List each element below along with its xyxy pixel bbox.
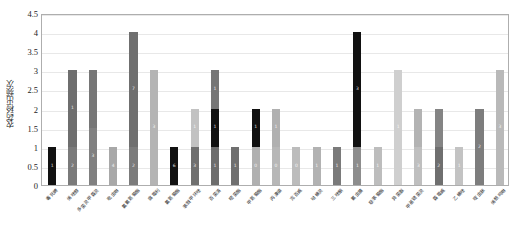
bar[interactable]: 3 <box>150 70 158 185</box>
bar[interactable]: 3 <box>414 109 422 185</box>
bar[interactable]: 1 <box>455 147 463 185</box>
y-tick-label: 0 <box>34 181 38 191</box>
y-tick-label: 2.5 <box>27 85 38 95</box>
bar-value-label: 1 <box>193 125 196 130</box>
bar-value-label: 1 <box>397 125 400 130</box>
x-tick-label: 啶虫脒 <box>473 188 486 202</box>
bar-value-label: 3 <box>193 164 196 169</box>
bar-value-label: 1 <box>254 125 257 130</box>
bar-segment: 4 <box>109 147 117 185</box>
bar[interactable]: 13 <box>353 32 361 185</box>
x-tick-label: 氯氰菊酯 <box>165 188 182 206</box>
bar-segment: 3 <box>191 147 199 185</box>
bar-value-label: 3 <box>91 154 94 159</box>
y-tick-label: 3.5 <box>27 47 38 57</box>
x-tick-label: 氟虫腈 <box>351 188 364 202</box>
bar[interactable]: 3 <box>89 70 97 185</box>
x-tick-label: 腐霉利 <box>148 188 161 202</box>
bar-value-label: 1 <box>51 164 54 169</box>
x-tick-label: 三唑酮 <box>331 188 344 202</box>
bar-segment: 1 <box>333 147 341 185</box>
bar[interactable]: 01 <box>252 109 260 185</box>
bar-segment: 1 <box>68 70 76 146</box>
bar-segment: 1 <box>252 109 260 147</box>
bar[interactable]: 1 <box>374 147 382 185</box>
bar-value-label: 3 <box>356 87 359 92</box>
bar-value-label: 3 <box>152 125 155 130</box>
bar-value-label: 3 <box>498 125 501 130</box>
bar-value-label: 1 <box>315 164 318 169</box>
y-tick-label: 1 <box>34 143 38 153</box>
bar-value-label: 1 <box>71 106 74 111</box>
bar-value-label: 2 <box>132 164 135 169</box>
bar-segment: 3 <box>353 32 361 147</box>
bar-segment: 1 <box>272 109 280 147</box>
bar-value-label: 1 <box>376 164 379 169</box>
bar-segment: 1 <box>313 147 321 185</box>
bar[interactable]: 4 <box>109 147 117 185</box>
bar-segment: 1 <box>211 147 219 185</box>
bar-segment: 0 <box>252 147 260 185</box>
bar[interactable]: 1 <box>48 147 56 185</box>
bar-segment: 1 <box>231 147 239 185</box>
x-tick-label: 异菌脲 <box>392 188 405 202</box>
bar-value-label: 1 <box>275 125 278 130</box>
bar[interactable]: 6 <box>170 147 178 185</box>
bar-value-label: 1 <box>214 164 217 169</box>
bar[interactable]: 1 <box>231 147 239 185</box>
bar[interactable]: 27 <box>129 32 137 185</box>
bar[interactable]: 31 <box>191 109 199 185</box>
x-tick-label: 嘧菌酯 <box>229 188 242 202</box>
bar-series: 1213427363111110101011131132123 <box>42 15 508 185</box>
bar[interactable]: 111 <box>211 70 219 185</box>
bar-value-label: 4 <box>112 164 115 169</box>
bar[interactable]: 1 <box>394 70 402 185</box>
bar-value-label: 7 <box>132 87 135 92</box>
chart-root: 农药检出频次 00.511.522.533.544.5 121342736311… <box>0 0 513 235</box>
bar[interactable]: 2 <box>435 109 443 185</box>
bar-segment: 3 <box>496 70 504 185</box>
bar[interactable]: 2 <box>475 109 483 185</box>
bar-segment: 7 <box>129 32 137 147</box>
x-tick-label: 克百威 <box>290 188 303 202</box>
x-tick-label: 甲基硫菌灵 <box>406 188 426 210</box>
x-tick-label: 乙螨唑 <box>453 188 466 202</box>
x-tick-label: 多菌灵甲霜灵 <box>77 188 100 213</box>
bar-value-label: 1 <box>458 164 461 169</box>
bar-segment: 1 <box>394 70 402 185</box>
bar-segment: 1 <box>48 147 56 185</box>
bar-segment: 2 <box>435 147 443 185</box>
bar-segment: 2 <box>129 147 137 185</box>
bar-segment: 1 <box>455 147 463 185</box>
bar-segment: 1 <box>374 147 382 185</box>
x-tick-label: 哒螨灵 <box>311 188 324 202</box>
x-tick-label: 毒死蜱 <box>46 188 59 202</box>
bar-value-label: 0 <box>254 164 257 169</box>
bar-segment: 3 <box>150 70 158 185</box>
bar[interactable]: 01 <box>272 109 280 185</box>
x-tick-label: 百菌清 <box>209 188 222 202</box>
bar-segment: 6 <box>170 147 178 185</box>
bar[interactable]: 21 <box>68 70 76 185</box>
bar-segment: 0 <box>292 147 300 185</box>
y-axis-tick-labels: 00.511.522.533.544.5 <box>16 14 40 186</box>
bar-value-label: 3 <box>417 164 420 169</box>
bar[interactable]: 1 <box>333 147 341 185</box>
bar-value-label: 0 <box>295 164 298 169</box>
bar[interactable]: 3 <box>496 70 504 185</box>
bar-segment: 1 <box>353 147 361 185</box>
bar-value-label: 1 <box>234 164 237 169</box>
x-tick-label: 氯氟氰菊酯 <box>121 188 141 210</box>
x-tick-label: 烯酰吗啉 <box>490 188 507 206</box>
bar-segment <box>89 70 97 127</box>
bar-value-label: 1 <box>214 87 217 92</box>
x-tick-label: 吡虫啉 <box>107 188 120 202</box>
bar[interactable]: 0 <box>292 147 300 185</box>
bar-value-label: 1 <box>336 164 339 169</box>
bar-segment <box>414 109 422 147</box>
y-tick-label: 2 <box>34 105 38 115</box>
x-tick-label: 霜霉威 <box>433 188 446 202</box>
bar-segment <box>435 109 443 147</box>
bar-value-label: 2 <box>71 164 74 169</box>
bar[interactable]: 1 <box>313 147 321 185</box>
